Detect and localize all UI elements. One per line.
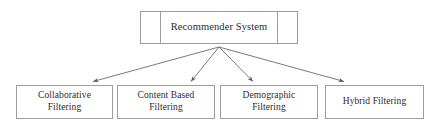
- node-content-based-filtering: Content Based Filtering: [117, 85, 215, 119]
- node-label-demographic-filtering: Demographic Filtering: [243, 90, 296, 113]
- edge-root-to-content-based-filtering: [191, 47, 219, 82]
- root-cell-label: Recommender System: [160, 11, 278, 44]
- node-label-collaborative-filtering: Collaborative Filtering: [38, 90, 91, 113]
- node-hybrid-filtering: Hybrid Filtering: [325, 85, 424, 119]
- node-label-hybrid-filtering: Hybrid Filtering: [343, 96, 407, 108]
- diagram-canvas: Recommender System Collaborative Filteri…: [0, 0, 438, 131]
- edge-root-to-collaborative-filtering: [93, 47, 219, 82]
- node-label-recommender-system: Recommender System: [171, 21, 268, 34]
- edge-root-to-hybrid-filtering: [219, 47, 344, 82]
- node-recommender-system: Recommender System: [140, 11, 298, 44]
- edge-root-to-demographic-filtering: [219, 47, 253, 82]
- root-cell-left-spacer: [140, 11, 161, 44]
- node-label-content-based-filtering: Content Based Filtering: [138, 90, 195, 113]
- root-cell-right-spacer: [277, 11, 298, 44]
- node-demographic-filtering: Demographic Filtering: [220, 85, 318, 119]
- node-collaborative-filtering: Collaborative Filtering: [16, 85, 113, 119]
